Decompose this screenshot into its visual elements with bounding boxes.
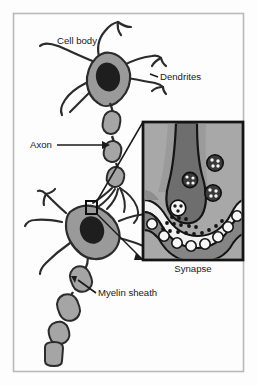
vesicle-releasing [170, 200, 186, 216]
label-cell-body: Cell body [57, 35, 97, 46]
label-synapse: Synapse [174, 263, 211, 274]
vesicle-dark [207, 155, 223, 171]
axon-terminal-end [45, 342, 63, 366]
label-myelin-sheath: Myelin sheath [98, 287, 157, 298]
label-axon: Axon [30, 139, 52, 150]
neuron-diagram-figure: Cell body Dendrites Axon Myelin sheath S… [0, 0, 257, 385]
neuron-diagram-canvas: Cell body Dendrites Axon Myelin sheath S… [0, 0, 257, 385]
synapse-detail-inset [143, 122, 243, 262]
vesicle-dark [205, 185, 221, 201]
label-dendrites: Dendrites [160, 71, 201, 82]
vesicle-dark [182, 172, 197, 187]
